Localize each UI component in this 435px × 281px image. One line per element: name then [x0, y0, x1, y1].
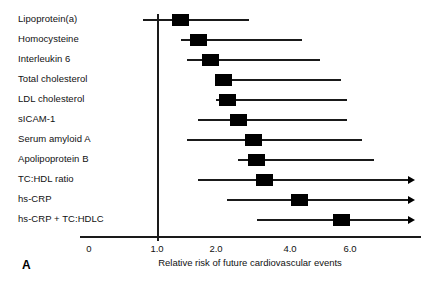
- point-estimate-box: [219, 94, 236, 106]
- row-label-total-cholesterol: Total cholesterol: [18, 73, 88, 84]
- x-axis-tick-1: [157, 233, 159, 241]
- x-tick-label-0: 0: [79, 243, 99, 254]
- row-label-sicam-1: sICAM-1: [18, 113, 55, 124]
- row-label-serum-amyloid-a: Serum amyloid A: [18, 133, 91, 144]
- ci-arrow-head-icon: [408, 196, 415, 204]
- row-label-apolipoprotein-b: Apolipoprotein B: [18, 153, 89, 164]
- point-estimate-box: [245, 134, 262, 146]
- ci-line: [227, 199, 408, 201]
- row-label-hs-crp-tc-hdlc: hs-CRP + TC:HDLC: [18, 213, 104, 224]
- row-label-homocysteine: Homocysteine: [18, 33, 79, 44]
- point-estimate-box: [190, 34, 207, 46]
- x-axis-line: [80, 236, 421, 238]
- ci-line: [143, 19, 249, 21]
- point-estimate-box: [230, 114, 247, 126]
- ci-line: [216, 99, 347, 101]
- ci-line: [216, 79, 341, 81]
- x-tick-label-6: 6.0: [336, 243, 364, 254]
- x-tick-label-2: 2.0: [202, 243, 230, 254]
- reference-line-1: [157, 14, 159, 237]
- x-tick-label-4: 4.0: [276, 243, 304, 254]
- panel-letter: A: [22, 258, 31, 272]
- point-estimate-box: [291, 194, 308, 206]
- ci-line: [198, 119, 347, 121]
- ci-line: [187, 139, 363, 141]
- point-estimate-box: [333, 214, 350, 226]
- x-axis-title: Relative risk of future cardiovascular e…: [100, 257, 400, 268]
- point-estimate-box: [248, 154, 265, 166]
- point-estimate-box: [256, 174, 273, 186]
- row-label-hs-crp: hs-CRP: [18, 193, 52, 204]
- forest-plot: Lipoprotein(a) Homocysteine Interleukin …: [0, 0, 435, 281]
- point-estimate-box: [215, 74, 232, 86]
- row-label-interleukin-6: Interleukin 6: [18, 53, 70, 64]
- ci-arrow-head-icon: [408, 216, 415, 224]
- row-label-tc-hdl-ratio: TC:HDL ratio: [18, 173, 74, 184]
- x-tick-label-1: 1.0: [143, 243, 171, 254]
- point-estimate-box: [202, 54, 219, 66]
- row-label-ldl-cholesterol: LDL cholesterol: [18, 93, 84, 104]
- point-estimate-box: [172, 14, 189, 26]
- ci-line: [198, 179, 408, 181]
- row-label-lipoprotein-a: Lipoprotein(a): [18, 13, 77, 24]
- ci-arrow-head-icon: [408, 176, 415, 184]
